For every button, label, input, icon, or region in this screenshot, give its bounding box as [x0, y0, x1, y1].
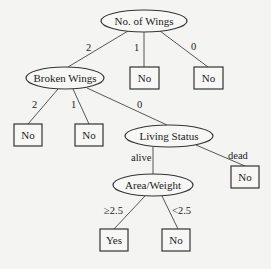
leaf-yes: Yes	[100, 229, 128, 251]
edge-label-root-2: 2	[86, 42, 91, 53]
leaf-bw2-label: No	[21, 129, 35, 141]
edge-label-ge: ≥2.5	[104, 205, 123, 216]
leaf-yes-label: Yes	[106, 234, 122, 246]
node-root: No. of Wings	[101, 10, 187, 32]
edge-label-bw-1: 1	[71, 99, 76, 110]
edge-label-dead: dead	[228, 150, 249, 161]
edge-root-wings0	[160, 31, 208, 67]
tree-svg: 2 1 0 2 1 0 alive dead ≥2.5 <2.5 No. of …	[0, 0, 271, 269]
edge-label-bw-0: 0	[137, 99, 142, 110]
leaf-wings1: No	[130, 67, 159, 89]
leaf-no-lt: No	[162, 229, 190, 251]
leaf-wings0: No	[194, 67, 223, 89]
decision-tree-diagram: 2 1 0 2 1 0 alive dead ≥2.5 <2.5 No. of …	[0, 0, 271, 269]
node-area-weight-label: Area/Weight	[125, 179, 181, 191]
node-living-status: Living Status	[125, 125, 213, 147]
edge-label-bw-2: 2	[32, 99, 37, 110]
edge-bw-0	[87, 88, 167, 125]
leaf-dead-label: No	[238, 171, 252, 183]
leaf-bw1-label: No	[82, 129, 96, 141]
node-area-weight: Area/Weight	[113, 174, 193, 196]
node-living-status-label: Living Status	[140, 130, 199, 142]
leaf-wings1-label: No	[138, 72, 152, 84]
edge-label-root-1: 1	[134, 42, 139, 53]
edge-root-broken-wings	[68, 31, 128, 67]
leaf-wings0-label: No	[202, 72, 216, 84]
edge-label-lt-text: <2.5	[172, 205, 191, 216]
node-root-label: No. of Wings	[115, 15, 174, 27]
leaf-bw2: No	[14, 124, 42, 146]
leaf-dead: No	[231, 166, 259, 188]
edge-label-root-0: 0	[191, 41, 196, 52]
edge-label-alive: alive	[131, 152, 152, 163]
leaf-no-lt-label: No	[169, 234, 183, 246]
leaf-bw1: No	[75, 124, 103, 146]
node-broken-wings: Broken Wings	[26, 67, 104, 89]
node-broken-wings-label: Broken Wings	[33, 72, 96, 84]
